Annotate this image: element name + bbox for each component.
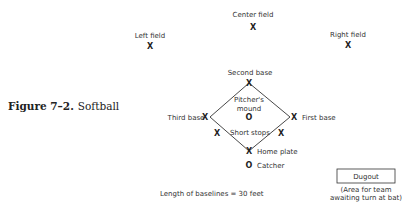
home-plate-marker: X: [246, 147, 253, 156]
short-stops-label: Short stops: [230, 129, 270, 137]
catcher-marker: O: [246, 161, 253, 170]
figure-title: Softball: [78, 100, 120, 112]
short-stop-left-marker: X: [214, 129, 221, 138]
baselines-note: Length of baselines = 30 feet: [160, 190, 264, 198]
home-plate-label: Home plate: [257, 148, 298, 156]
pitchers-mound-label-1: Pitcher's: [234, 96, 264, 104]
center-field-label: Center field: [233, 11, 274, 19]
left-field-marker: X: [147, 42, 154, 51]
third-base-marker: X: [202, 113, 209, 122]
diagram-canvas: Center field X Left field X Right field …: [0, 0, 415, 216]
second-base-label: Second base: [228, 69, 273, 77]
dugout-note-1: (Area for team: [340, 186, 391, 194]
softball-field-diagram: Center field X Left field X Right field …: [0, 0, 415, 216]
left-field-label: Left field: [135, 32, 166, 40]
right-field-marker: X: [345, 41, 352, 50]
dugout-label: Dugout: [353, 173, 379, 181]
first-base-marker: X: [291, 113, 298, 122]
figure-number: Figure 7–2.: [8, 100, 74, 112]
center-field-marker: X: [250, 23, 257, 32]
pitchers-mound-marker: O: [246, 113, 253, 122]
dugout-note-2: awaiting turn at bat): [330, 194, 402, 202]
catcher-label: Catcher: [257, 162, 285, 170]
third-base-label: Third base: [167, 114, 205, 122]
short-stop-right-marker: X: [278, 129, 285, 138]
first-base-label: First base: [302, 114, 336, 122]
right-field-label: Right field: [330, 31, 366, 39]
pitchers-mound-label-2: mound: [237, 105, 261, 113]
figure-caption: Figure 7–2.Softball: [8, 100, 120, 112]
second-base-marker: X: [246, 79, 253, 88]
